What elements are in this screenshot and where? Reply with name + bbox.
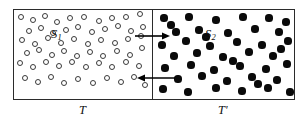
system-label-s1-text: S [51, 27, 57, 41]
temperature-label-right-prime: ' [225, 103, 228, 117]
system-label-s2: S2 [205, 28, 216, 42]
temperature-label-left-text: T [79, 103, 86, 117]
exchange-arrows [0, 0, 307, 123]
temperature-label-right-text: T [218, 103, 225, 117]
temperature-label-right: T' [218, 104, 228, 117]
temperature-label-left: T [79, 104, 86, 117]
physics-diagram: S1 S2 T T' [0, 0, 307, 123]
system-label-s2-text: S [205, 27, 211, 41]
system-label-s2-subscript: 2 [212, 32, 216, 42]
system-label-s1-subscript: 1 [58, 32, 62, 42]
system-label-s1: S1 [51, 28, 62, 42]
